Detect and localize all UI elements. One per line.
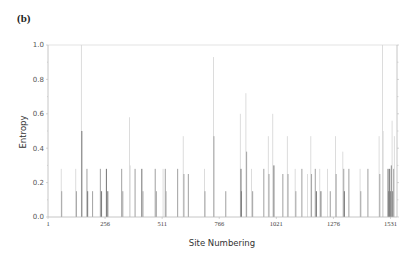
- entropy-bar: [268, 174, 269, 217]
- x-tick-label: 1: [46, 220, 49, 227]
- entropy-bar: [320, 191, 321, 217]
- entropy-bar: [251, 169, 252, 217]
- entropy-bar: [252, 191, 253, 217]
- entropy-bar: [155, 169, 156, 217]
- entropy-bar: [106, 169, 107, 217]
- entropy-bar: [87, 191, 88, 217]
- entropy-bar: [273, 165, 274, 217]
- y-tick-label: 0.6: [33, 110, 45, 118]
- entropy-bar: [316, 191, 317, 217]
- entropy-bar: [163, 169, 164, 217]
- bars-group: [61, 45, 395, 217]
- entropy-bar: [165, 191, 166, 217]
- entropy-bar: [315, 169, 316, 217]
- y-tick-label: 0.8: [33, 76, 44, 84]
- entropy-bar: [319, 169, 320, 217]
- entropy-bar: [188, 174, 189, 217]
- entropy-bar: [81, 131, 82, 217]
- x-axis: 1256511766102112761531: [46, 217, 397, 227]
- x-tick-label: 1021: [270, 220, 283, 227]
- entropy-bar: [301, 169, 302, 217]
- entropy-bar: [307, 174, 308, 217]
- y-tick-label: 0.4: [33, 145, 45, 153]
- y-axis-title: Entropy: [18, 115, 28, 148]
- entropy-bar: [390, 191, 391, 217]
- entropy-bar: [142, 191, 143, 217]
- entropy-bar: [311, 174, 312, 217]
- entropy-bar: [141, 169, 142, 217]
- entropy-bar: [204, 191, 205, 217]
- entropy-bar: [156, 191, 157, 217]
- entropy-bar: [101, 191, 102, 217]
- entropy-bar: [336, 174, 337, 217]
- entropy-bar: [295, 191, 296, 217]
- entropy-bar: [394, 136, 395, 217]
- y-tick-label: 0.2: [33, 179, 44, 187]
- entropy-bar: [225, 191, 226, 217]
- entropy-bar: [344, 191, 345, 217]
- entropy-bar: [177, 169, 178, 217]
- entropy-bar: [342, 152, 343, 217]
- entropy-bar: [327, 169, 328, 217]
- entropy-bar: [367, 169, 368, 217]
- entropy-bar: [183, 174, 184, 217]
- entropy-bar: [272, 114, 273, 217]
- entropy-bar-chart: 0.00.20.40.60.81.0 125651176610211276153…: [0, 0, 413, 259]
- entropy-bar: [121, 169, 122, 217]
- entropy-bar: [348, 169, 349, 217]
- entropy-bar: [122, 191, 123, 217]
- entropy-bar: [360, 191, 361, 217]
- x-tick-label: 1531: [384, 220, 397, 227]
- x-tick-label: 256: [100, 220, 111, 227]
- entropy-bar: [282, 174, 283, 217]
- entropy-bar: [330, 191, 331, 217]
- entropy-bar: [130, 165, 131, 217]
- x-tick-label: 766: [214, 220, 225, 227]
- x-tick-label: 511: [157, 220, 167, 227]
- entropy-bar: [287, 174, 288, 217]
- entropy-bar: [383, 131, 384, 217]
- entropy-bar: [246, 152, 247, 217]
- entropy-bar: [107, 191, 108, 217]
- entropy-bar: [241, 191, 242, 217]
- y-tick-label: 1.0: [33, 41, 44, 49]
- entropy-bar: [92, 191, 93, 217]
- entropy-bar: [135, 169, 136, 217]
- entropy-bar: [76, 191, 77, 217]
- entropy-bar: [379, 174, 380, 217]
- x-axis-title: Site Numbering: [189, 238, 255, 248]
- entropy-bar: [100, 169, 101, 217]
- y-tick-label: 0.0: [33, 213, 44, 221]
- entropy-bar: [61, 191, 62, 217]
- x-tick-label: 1276: [327, 220, 341, 227]
- entropy-bar: [263, 169, 264, 217]
- entropy-bar: [213, 136, 214, 217]
